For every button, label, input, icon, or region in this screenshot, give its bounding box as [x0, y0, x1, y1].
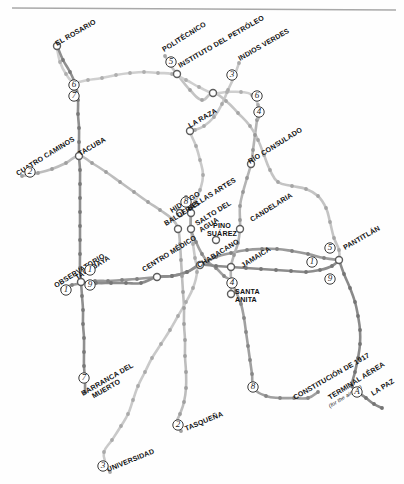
station-dot[interactable] — [178, 412, 182, 416]
station-dot[interactable] — [182, 322, 186, 326]
station-dot[interactable] — [372, 402, 376, 406]
line-badge-1[interactable]: 1 — [85, 264, 95, 275]
station-dot[interactable] — [276, 180, 280, 184]
station-dot[interactable] — [275, 247, 279, 251]
station-dot[interactable] — [184, 78, 188, 82]
station-dot[interactable] — [194, 144, 198, 148]
station-dot[interactable] — [135, 277, 139, 281]
station-dot[interactable] — [250, 372, 254, 376]
station-dot[interactable] — [259, 267, 263, 271]
line-badge-2[interactable]: 2 — [25, 166, 35, 177]
station-dot[interactable] — [304, 270, 308, 274]
station-dot[interactable] — [78, 196, 82, 200]
line-badge-3[interactable]: 3 — [98, 460, 108, 471]
station-dot[interactable] — [128, 71, 132, 75]
station-dot[interactable] — [61, 58, 65, 62]
station-dot[interactable] — [256, 138, 260, 142]
station-dot[interactable] — [70, 283, 74, 287]
station-dot[interactable] — [78, 168, 82, 172]
interchange-node[interactable] — [210, 90, 217, 97]
station-dot[interactable] — [76, 112, 80, 116]
station-dot[interactable] — [124, 281, 128, 285]
station-dot[interactable] — [86, 78, 90, 82]
station-dot[interactable] — [119, 424, 123, 428]
station-dot[interactable] — [197, 85, 201, 89]
interchange-node[interactable] — [237, 226, 244, 233]
station-dot[interactable] — [238, 204, 242, 208]
station-dot[interactable] — [78, 238, 82, 242]
station-dot[interactable] — [225, 90, 229, 94]
station-dot[interactable] — [78, 224, 82, 228]
interchange-node[interactable] — [174, 71, 181, 78]
station-dot[interactable] — [78, 182, 82, 186]
station-dot[interactable] — [248, 124, 252, 128]
station-dot[interactable] — [353, 370, 357, 374]
station-dot[interactable] — [253, 133, 257, 137]
station-dot[interactable] — [143, 370, 147, 374]
station-dot[interactable] — [90, 161, 94, 165]
station-dot[interactable] — [78, 252, 82, 256]
station-dot[interactable] — [248, 358, 252, 362]
station-dot[interactable] — [251, 148, 255, 152]
station-dot[interactable] — [158, 208, 162, 212]
station-dot[interactable] — [131, 398, 135, 402]
station-dot[interactable] — [114, 73, 118, 77]
station-dot[interactable] — [168, 328, 172, 332]
station-dot[interactable] — [68, 70, 72, 74]
station-dot[interactable] — [191, 286, 195, 290]
station-dot[interactable] — [201, 173, 205, 177]
station-dot[interactable] — [82, 364, 86, 368]
station-dot[interactable] — [182, 306, 186, 310]
station-dot[interactable] — [246, 344, 250, 348]
station-dot[interactable] — [195, 270, 199, 274]
station-dot[interactable] — [81, 308, 85, 312]
station-dot[interactable] — [306, 396, 310, 400]
interchange-node[interactable] — [336, 257, 343, 264]
station-dot[interactable] — [82, 336, 86, 340]
station-dot[interactable] — [264, 394, 268, 398]
station-dot[interactable] — [146, 200, 150, 204]
station-dot[interactable] — [184, 370, 188, 374]
interchange-node[interactable] — [228, 264, 235, 271]
station-dot[interactable] — [245, 248, 249, 252]
line-badge-2[interactable]: 2 — [173, 419, 183, 430]
station-dot[interactable] — [183, 354, 187, 358]
interchange-node[interactable] — [188, 226, 195, 233]
station-dot[interactable] — [64, 161, 68, 165]
line-badge-5[interactable]: 5 — [325, 242, 335, 253]
station-dot[interactable] — [104, 170, 108, 174]
station-dot[interactable] — [220, 102, 224, 106]
station-dot[interactable] — [80, 294, 84, 298]
station-dot[interactable] — [78, 210, 82, 214]
station-dot[interactable] — [193, 256, 197, 260]
line-badge-1[interactable]: 1 — [307, 256, 317, 267]
station-dot[interactable] — [202, 124, 206, 128]
station-dot[interactable] — [330, 264, 334, 268]
interchange-node[interactable] — [228, 291, 235, 298]
station-dot[interactable] — [322, 256, 326, 260]
station-dot[interactable] — [200, 252, 204, 256]
station-dot[interactable] — [332, 236, 336, 240]
station-dot[interactable] — [239, 90, 243, 94]
station-dot[interactable] — [184, 300, 188, 304]
station-dot[interactable] — [36, 171, 40, 175]
station-dot[interactable] — [236, 111, 240, 115]
station-dot[interactable] — [132, 190, 136, 194]
station-dot[interactable] — [184, 386, 188, 390]
station-dot[interactable] — [289, 269, 293, 273]
station-dot[interactable] — [324, 206, 328, 210]
station-dot[interactable] — [180, 274, 184, 278]
station-dot[interactable] — [222, 274, 226, 278]
station-dot[interactable] — [268, 168, 272, 172]
line-badge-6[interactable]: 6 — [69, 79, 79, 90]
line-badge-6[interactable]: 6 — [252, 90, 262, 101]
station-dot[interactable] — [318, 268, 322, 272]
station-dot[interactable] — [358, 328, 362, 332]
line-badge-8[interactable]: 8 — [181, 196, 191, 207]
station-dot[interactable] — [136, 384, 140, 388]
interchange-node[interactable] — [154, 274, 161, 281]
station-dot[interactable] — [170, 274, 174, 278]
station-dot[interactable] — [102, 450, 106, 454]
station-dot[interactable] — [328, 220, 332, 224]
station-dot[interactable] — [109, 281, 113, 285]
